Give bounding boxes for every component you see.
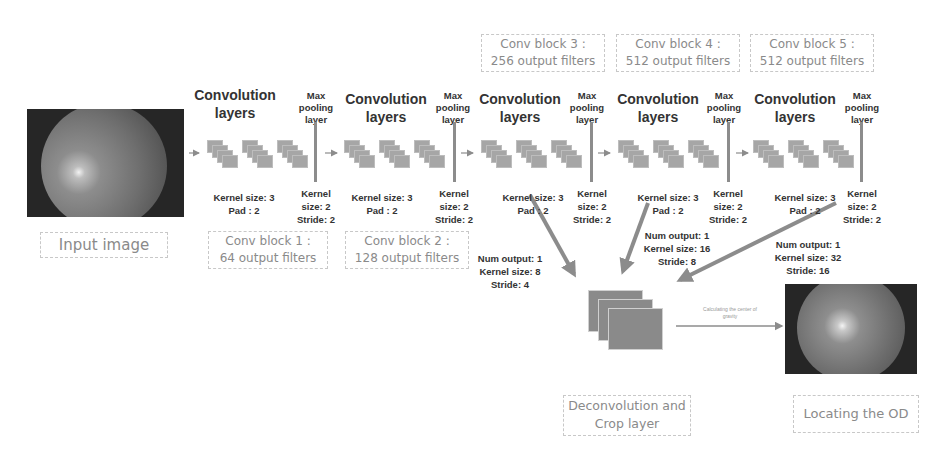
pool-title-1: Max pooling layer: [296, 90, 336, 126]
feature-stack-icon: [551, 140, 587, 170]
feature-stack-icon: [516, 140, 552, 170]
pool-params-3: Kernel size: 2 Stride: 2: [572, 187, 612, 226]
conv-block-1-label: Conv block 1 : 64 output filters: [208, 231, 328, 269]
feature-stack-icon: [277, 140, 313, 170]
feature-stack-icon: [344, 140, 380, 170]
pool-bar-icon: [314, 122, 317, 182]
conv-title-4: Convolution layers: [603, 90, 713, 126]
conv-block-2-label: Conv block 2 : 128 output filters: [345, 231, 469, 269]
deconv-label-box: Deconvolution and Crop layer: [563, 395, 691, 436]
conv-title-2: Convolution layers: [331, 90, 441, 126]
output-label: Locating the OD: [803, 406, 908, 421]
feature-stack-icon: [618, 140, 654, 170]
feature-map-icon: [608, 308, 663, 350]
output-label-box: Locating the OD: [793, 395, 919, 433]
conv-params-4: Kernel size: 3 Pad : 2: [631, 191, 705, 217]
conv-params-1: Kernel size: 3 Pad : 2: [207, 191, 281, 217]
deconv-branch-2-params: Num output: 1 Kernel size: 16 Stride: 8: [636, 229, 718, 268]
pool-params-5: Kernel size: 2 Stride: 2: [842, 187, 882, 226]
conv-block-5-label: Conv block 5 : 512 output filters: [750, 34, 874, 72]
feature-stack-icon: [242, 140, 278, 170]
feature-stack-icon: [414, 140, 450, 170]
deconv-branch-3-params: Num output: 1 Kernel size: 32 Stride: 16: [767, 238, 849, 277]
pool-bar-icon: [727, 122, 730, 182]
output-fundus-image: [785, 284, 917, 374]
feature-stack-icon: [379, 140, 415, 170]
feature-stack-icon: [788, 140, 824, 170]
pool-title-4: Max pooling layer: [704, 90, 744, 126]
deconv-branch-1-params: Num output: 1 Kernel size: 8 Stride: 4: [470, 252, 550, 291]
feature-stack-icon: [481, 140, 517, 170]
conv-title-3: Convolution layers: [465, 90, 575, 126]
conv-title-5: Convolution layers: [740, 90, 850, 126]
pool-title-3: Max pooling layer: [567, 90, 607, 126]
conv-block-3-label: Conv block 3 : 256 output filters: [481, 34, 605, 72]
feature-stack-icon: [653, 140, 689, 170]
feature-stack-icon: [688, 140, 724, 170]
pool-bar-icon: [860, 122, 863, 182]
pool-params-1: Kernel size: 2 Stride: 2: [296, 187, 336, 226]
conv-params-3: Kernel size: 3 Pad : 2: [496, 191, 570, 217]
conv-params-5: Kernel size: 3 Pad : 2: [768, 191, 842, 217]
pool-bar-icon: [453, 122, 456, 182]
pool-params-4: Kernel size: 2 Stride: 2: [708, 187, 748, 226]
pool-params-2: Kernel size: 2 Stride: 2: [434, 187, 474, 226]
feature-stack-icon: [823, 140, 859, 170]
gravity-caption: Calculating the center of gravity: [680, 306, 780, 320]
conv-block-4-label: Conv block 4 : 512 output filters: [616, 34, 740, 72]
pool-title-5: Max pooling layer: [842, 90, 882, 126]
pool-bar-icon: [590, 122, 593, 182]
feature-stack-icon: [207, 140, 243, 170]
conv-params-2: Kernel size: 3 Pad : 2: [345, 191, 419, 217]
feature-stack-icon: [753, 140, 789, 170]
conv-title-1: Convolution layers: [180, 86, 290, 122]
